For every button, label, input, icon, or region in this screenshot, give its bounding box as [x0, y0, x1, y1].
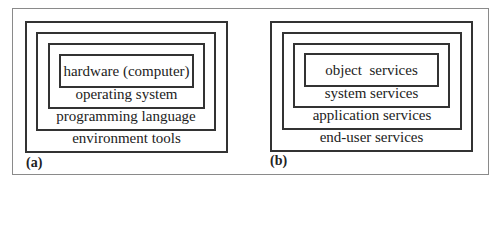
panel-b-layer-application-services: application services — [282, 106, 462, 124]
panel-b-layer-end-user-services: end-user services — [270, 128, 473, 146]
panel-a-layer-programming-language: programming language — [36, 107, 216, 125]
panel-a-layer-operating-system: operating system — [48, 85, 205, 103]
panel-a-label: (a) — [26, 155, 42, 171]
panel-b-layer-system-services: system services — [293, 84, 450, 102]
panel-a-layer-hardware: hardware (computer) — [59, 62, 194, 80]
panel-b-layer-object-services: object services — [304, 61, 439, 79]
panel-a-layer-environment-tools: environment tools — [25, 129, 228, 147]
panel-b-label: (b) — [270, 153, 287, 169]
